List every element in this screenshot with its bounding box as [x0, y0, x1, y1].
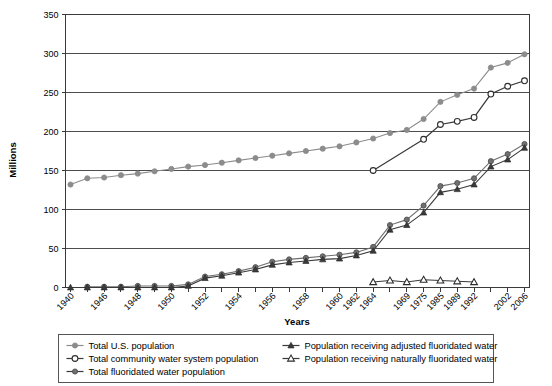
y-tick-label: 250: [43, 88, 58, 98]
legend-item-label: Total fluoridated water population: [89, 367, 225, 377]
x-tick-label: 1948: [122, 291, 143, 312]
y-tick-label: 100: [43, 205, 58, 215]
legend-item-label: Total community water system population: [89, 354, 259, 364]
x-tick-label: 1985: [425, 291, 446, 312]
y-tick-label: 50: [48, 244, 58, 254]
x-axis-tick-labels: 1940194619481950195219541956195819601962…: [55, 291, 530, 312]
gridlines: [62, 15, 530, 288]
legend-item[interactable]: Population receiving naturally fluoridat…: [283, 354, 498, 364]
y-axis-title: Millions: [7, 142, 18, 177]
chart-legend: Total U.S. populationTotal community wat…: [59, 335, 498, 383]
y-tick-label: 300: [43, 49, 58, 59]
x-tick-label: 1954: [223, 291, 244, 312]
x-tick-label: 1962: [341, 291, 362, 312]
y-tick-label: 0: [53, 283, 58, 293]
legend-item[interactable]: Total community water system population: [67, 354, 259, 364]
x-tick-label: 1975: [408, 291, 429, 312]
y-tick-label: 350: [43, 10, 58, 20]
x-tick-label: 1958: [290, 291, 311, 312]
x-tick-label: 1992: [458, 291, 479, 312]
legend-item-label: Population receiving adjusted fluoridate…: [305, 341, 498, 351]
legend-item[interactable]: Population receiving adjusted fluoridate…: [283, 341, 498, 351]
x-tick-label: 1950: [156, 291, 177, 312]
x-tick-label: 1964: [357, 291, 378, 312]
x-tick-label: 2002: [492, 291, 513, 312]
legend-item-label: Population receiving naturally fluoridat…: [305, 354, 498, 364]
x-tick-label: 1940: [55, 291, 76, 312]
x-tick-label: 1960: [324, 291, 345, 312]
legend-item[interactable]: Total fluoridated water population: [67, 367, 225, 377]
x-tick-label: 1952: [189, 291, 210, 312]
y-tick-label: 150: [43, 166, 58, 176]
series-3: [67, 145, 527, 290]
series-2: [85, 141, 527, 289]
x-tick-label: 1989: [441, 291, 462, 312]
chart-container: 050100150200250300350 194019461948195019…: [0, 0, 552, 386]
y-tick-label: 200: [43, 127, 58, 137]
series-4: [370, 276, 478, 284]
plot-area-frame: [66, 15, 530, 288]
y-axis-tick-labels: 050100150200250300350: [43, 10, 58, 293]
x-tick-label: 1946: [88, 291, 109, 312]
legend-item-label: Total U.S. population: [89, 341, 175, 351]
x-tick-label: 2006: [509, 291, 530, 312]
population-fluoridation-line-chart: 050100150200250300350 194019461948195019…: [0, 0, 552, 386]
x-axis-title: Years: [284, 316, 309, 327]
x-tick-label: 1969: [391, 291, 412, 312]
x-tick-label: 1956: [256, 291, 277, 312]
